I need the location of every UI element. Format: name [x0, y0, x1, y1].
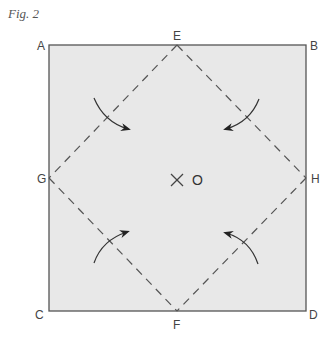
center-label: O [192, 172, 203, 188]
midpoint-label-f: F [173, 318, 180, 332]
midpoint-label-e: E [173, 29, 181, 43]
midpoint-label-h: H [311, 172, 320, 186]
folding-diagram: O A B C D E F G H [0, 0, 329, 339]
corner-label-a: A [37, 39, 45, 53]
midpoint-label-g: G [37, 172, 46, 186]
corner-label-c: C [35, 308, 44, 322]
paper-square [49, 45, 306, 311]
corner-label-d: D [309, 308, 318, 322]
corner-label-b: B [310, 39, 318, 53]
